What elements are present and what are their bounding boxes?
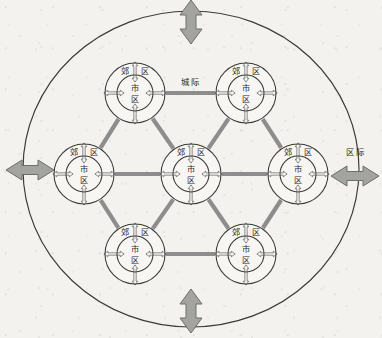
suburb-label-left: 郊	[70, 147, 78, 157]
urban-label-bottom: 区	[242, 255, 250, 265]
suburb-label-right: 区	[252, 66, 260, 76]
urban-label-top: 市	[131, 83, 139, 93]
label-intercity: 城际	[181, 77, 201, 87]
suburb-label-left: 郊	[232, 66, 240, 76]
city-node-top-left[interactable]: 郊区市区	[104, 62, 166, 124]
suburb-label-right: 区	[197, 147, 205, 157]
urban-region-structure-diagram: 郊区市区郊区市区郊区市区郊区市区郊区市区郊区市区郊区市区 城际区际	[0, 0, 382, 338]
urban-label-bottom: 区	[242, 94, 250, 104]
edge-center-bottomleft	[153, 199, 173, 228]
urban-label-top: 市	[80, 164, 88, 174]
urban-label-bottom: 区	[187, 175, 195, 185]
suburb-label-right: 区	[304, 147, 312, 157]
edge-left-bottomleft	[101, 200, 119, 228]
urban-label-top: 市	[131, 244, 139, 254]
urban-label-top: 市	[187, 164, 195, 174]
edge-topright-right	[263, 119, 282, 148]
urban-label-bottom: 区	[294, 175, 302, 185]
edge-center-bottomright	[209, 200, 229, 229]
suburb-label-right: 区	[90, 147, 98, 157]
arrow-right	[331, 166, 379, 186]
diagram-page: 郊区市区郊区市区郊区市区郊区市区郊区市区郊区市区郊区市区 城际区际	[0, 0, 382, 338]
urban-label-bottom: 区	[80, 175, 88, 185]
city-node-left[interactable]: 郊区市区	[53, 143, 115, 205]
urban-label-top: 市	[242, 83, 250, 93]
arrow-left	[6, 160, 54, 180]
node-layer: 郊区市区郊区市区郊区市区郊区市区郊区市区郊区市区郊区市区	[53, 62, 329, 285]
urban-label-bottom: 区	[131, 255, 139, 265]
urban-label-bottom: 区	[131, 94, 139, 104]
label-interregional: 区际	[346, 147, 366, 157]
suburb-label-right: 区	[141, 227, 149, 237]
city-node-center[interactable]: 郊区市区	[160, 143, 222, 205]
suburb-label-left: 郊	[232, 227, 240, 237]
suburb-label-right: 区	[252, 227, 260, 237]
suburb-label-left: 郊	[121, 66, 129, 76]
edge-topleft-left	[101, 119, 119, 148]
city-node-right[interactable]: 郊区市区	[267, 143, 329, 205]
edge-center-topright	[208, 119, 228, 149]
edge-right-bottomright	[263, 200, 281, 228]
urban-label-top: 市	[294, 164, 302, 174]
city-node-top-right[interactable]: 郊区市区	[215, 62, 277, 124]
suburb-label-left: 郊	[177, 147, 185, 157]
edge-center-topleft	[153, 118, 174, 148]
city-node-bottom-right[interactable]: 郊区市区	[215, 223, 277, 285]
suburb-label-right: 区	[141, 66, 149, 76]
suburb-label-left: 郊	[121, 227, 129, 237]
suburb-label-left: 郊	[284, 147, 292, 157]
arrow-top	[180, 0, 202, 44]
urban-label-top: 市	[242, 244, 250, 254]
city-node-bottom-left[interactable]: 郊区市区	[104, 223, 166, 285]
